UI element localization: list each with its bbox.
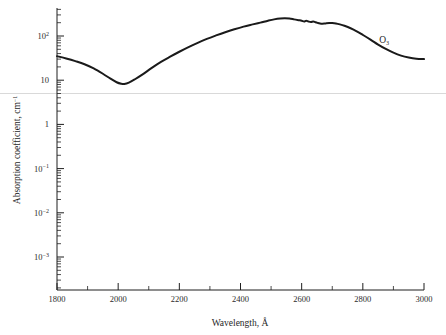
- figure-background: [0, 0, 446, 335]
- chart-annotations: O₃: [379, 35, 389, 45]
- absorption-spectrum-chart: 10210110−110−210−3 180020002200240026002…: [0, 0, 446, 335]
- figure-root: 10210110−110−210−3 180020002200240026002…: [0, 0, 446, 335]
- x-axis-title: Wavelength, Å: [212, 317, 269, 328]
- x-tick-label: 2400: [232, 294, 249, 304]
- y-tick-label: 1: [45, 119, 49, 129]
- x-tick-label: 1800: [49, 294, 66, 304]
- y-axis-title: Absorption coefficient, cm−1: [12, 96, 22, 204]
- x-tick-label: 2600: [293, 294, 310, 304]
- ozone-series-label: O₃: [379, 35, 389, 45]
- x-tick-label: 2800: [354, 294, 371, 304]
- y-tick-label: 10: [41, 75, 50, 85]
- x-tick-label: 2200: [171, 294, 188, 304]
- x-tick-label: 2000: [110, 294, 127, 304]
- x-tick-label: 3000: [416, 294, 433, 304]
